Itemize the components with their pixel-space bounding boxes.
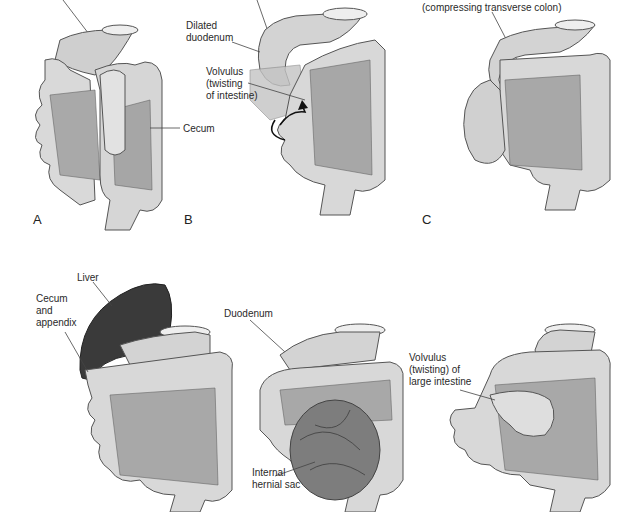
panel-e: Duodenum Internal hernial sac (220, 300, 420, 512)
label-internal-hernial-sac: Internal hernial sac (252, 467, 300, 491)
label-dilated-duodenum: Dilated duodenum (186, 20, 233, 44)
panel-letter-a: A (33, 212, 42, 227)
panel-letter-b: B (184, 212, 193, 227)
label-liver: Liver (77, 272, 99, 284)
panel-d: Liver Cecum and appendix (0, 260, 240, 512)
panel-f: Volvulus (twisting) of large intestine (400, 300, 641, 512)
panel-c: (compressing transverse colon) C (400, 0, 641, 230)
label-volvulus-b: Volvulus (twisting of intestine) (206, 66, 258, 102)
panel-a: Cecum A (0, 0, 200, 230)
intestine-illustration-e (220, 300, 420, 512)
panel-letter-c: C (422, 212, 431, 227)
label-duodenum: Duodenum (224, 308, 273, 320)
panel-b: Dilated duodenum Volvulus (twisting of i… (180, 0, 400, 230)
intestine-illustration-c (400, 0, 641, 230)
intestine-illustration-a (0, 0, 200, 230)
label-cecum-and-appendix: Cecum and appendix (36, 293, 77, 329)
intestine-illustration-f (400, 300, 641, 512)
label-volvulus-large-intestine: Volvulus (twisting) of large intestine (409, 352, 471, 388)
label-compressing-transverse-colon: (compressing transverse colon) (422, 2, 562, 14)
